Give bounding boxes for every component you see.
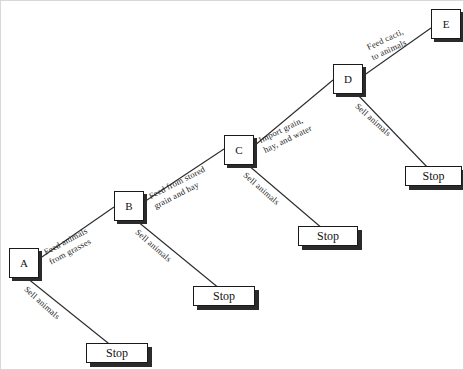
terminal-node-stop-4-label: Stop xyxy=(422,169,444,184)
terminal-node-stop-2[interactable]: Stop xyxy=(193,286,255,306)
terminal-node-stop-3-label: Stop xyxy=(317,229,339,244)
decision-node-e-label: E xyxy=(443,18,450,30)
line-a-stop1 xyxy=(27,278,113,347)
decision-node-e[interactable]: E xyxy=(431,9,461,39)
terminal-node-stop-1-label: Stop xyxy=(106,346,128,361)
decision-node-d-label: D xyxy=(344,73,352,85)
line-c-stop3 xyxy=(248,165,323,229)
decision-node-a[interactable]: A xyxy=(9,248,39,278)
terminal-node-stop-4[interactable]: Stop xyxy=(405,166,462,186)
decision-node-c[interactable]: C xyxy=(224,135,254,165)
decision-node-a-label: A xyxy=(20,257,28,269)
decision-node-c-label: C xyxy=(235,144,242,156)
decision-node-b-label: B xyxy=(125,200,132,212)
terminal-node-stop-3[interactable]: Stop xyxy=(298,226,358,246)
line-b-stop2 xyxy=(137,221,220,289)
terminal-node-stop-2-label: Stop xyxy=(213,289,235,304)
edge-lines-layer xyxy=(1,1,464,370)
decision-node-b[interactable]: B xyxy=(114,191,144,221)
terminal-node-stop-1[interactable]: Stop xyxy=(86,343,148,363)
decision-node-d[interactable]: D xyxy=(333,64,363,94)
diagram-canvas: A B C D E Stop Stop Stop Stop Feed anima… xyxy=(0,0,464,370)
